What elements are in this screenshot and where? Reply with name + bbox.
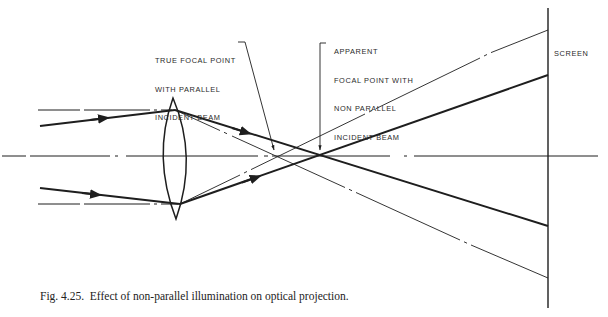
- incident-beam-lower: [40, 188, 180, 204]
- apparent-focal-point-label: APPARENT FOCAL POINT WITH NON PARALLEL I…: [334, 28, 413, 152]
- true-focal-point-label: TRUE FOCAL POINT WITH PARALLEL INCIDENT …: [155, 37, 236, 132]
- optical-projection-diagram: [0, 0, 608, 317]
- figure-caption: Fig. 4.25. Effect of non-parallel illumi…: [40, 290, 349, 302]
- screen-label: SCREEN: [554, 49, 588, 59]
- apparent-focal-line-4: INCIDENT BEAM: [334, 133, 413, 143]
- true-focal-line-1: TRUE FOCAL POINT: [155, 56, 236, 66]
- true-focal-line-3: INCIDENT BEAM: [155, 113, 236, 123]
- true-focal-leader: [238, 42, 274, 150]
- apparent-focal-line-3: NON PARALLEL: [334, 104, 413, 114]
- true-focal-line-2: WITH PARALLEL: [155, 85, 236, 95]
- apparent-focal-line-2: FOCAL POINT WITH: [334, 76, 413, 86]
- apparent-focal-line-1: APPARENT: [334, 47, 413, 57]
